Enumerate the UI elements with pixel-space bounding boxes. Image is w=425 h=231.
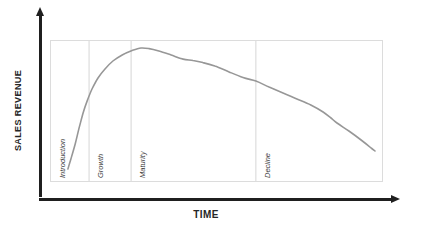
sales-revenue-curve — [68, 48, 375, 169]
phase-label-decline: Decline — [263, 153, 272, 178]
y-axis-line — [39, 15, 42, 197]
y-axis-arrowhead-icon — [36, 7, 44, 16]
product-lifecycle-chart: SALES REVENUE IntroductionGrowthMaturity… — [0, 0, 425, 231]
x-axis-line — [39, 198, 392, 201]
x-axis-label: TIME — [150, 209, 262, 220]
y-axis-label: SALES REVENUE — [12, 51, 25, 171]
x-axis-arrowhead-icon — [391, 195, 400, 203]
phase-label-growth: Growth — [96, 154, 105, 178]
plot-area: IntroductionGrowthMaturityDecline — [50, 40, 383, 182]
phase-label-introduction: Introduction — [58, 139, 67, 178]
phase-label-maturity: Maturity — [138, 151, 147, 178]
